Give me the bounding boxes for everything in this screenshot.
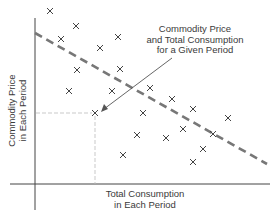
x-axis-label-line-1: Total Consumption (85, 189, 205, 200)
x-marker (147, 85, 153, 91)
x-marker (169, 96, 175, 102)
y-axis-label-line-1: Commodity Price (7, 61, 18, 161)
x-marker (134, 132, 140, 138)
annotation-arrowhead (101, 104, 108, 112)
annotation-arrow-line (104, 58, 172, 109)
annotation-line-3: for a Given Period (135, 45, 255, 56)
x-marker (47, 8, 53, 14)
x-marker (97, 45, 103, 51)
x-axis-label: Total Consumption in Each Period (85, 189, 205, 210)
x-marker (120, 152, 126, 158)
x-marker (58, 36, 64, 42)
annotation-line-1: Commodity Price (135, 24, 255, 35)
x-marker (190, 106, 196, 112)
x-marker (92, 110, 98, 116)
x-marker (140, 110, 146, 116)
x-marker (74, 67, 80, 73)
x-axis-label-line-2: in Each Period (85, 200, 205, 211)
x-marker (117, 66, 123, 72)
x-marker (200, 146, 206, 152)
x-marker (180, 126, 186, 132)
x-marker (115, 34, 121, 40)
x-marker (73, 23, 79, 29)
x-marker (163, 135, 169, 141)
x-marker (109, 88, 115, 94)
x-marker (210, 131, 216, 137)
y-axis-label-line-2: in Each Period (17, 61, 28, 161)
annotation-label: Commodity Price and Total Consumption fo… (135, 24, 255, 56)
x-marker (190, 159, 196, 165)
x-marker (66, 88, 72, 94)
x-marker (225, 115, 231, 121)
y-axis-label: Commodity Price in Each Period (7, 61, 28, 161)
